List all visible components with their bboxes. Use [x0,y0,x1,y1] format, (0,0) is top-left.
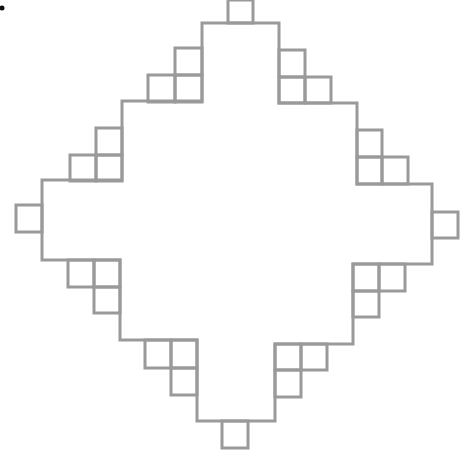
square-cell-ul-1 [175,48,202,75]
square-cell-top [228,0,253,23]
square-cell-ur-2 [357,157,382,184]
square-cell-ur-4 [279,50,305,77]
square-cell-ur-3 [382,157,408,184]
square-cell-ll-1 [68,260,94,287]
square-cell-ul-4 [96,128,122,155]
square-cell-ul-5 [70,155,96,181]
diamond-outline [42,23,432,421]
square-cell-ll-6 [171,368,197,395]
square-cell-lr-2 [301,344,327,370]
square-cell-ul-3 [175,75,202,102]
square-cell-right [432,212,458,238]
square-cell-ur-6 [305,77,331,103]
square-cell-lr-5 [379,264,405,291]
square-cell-ll-3 [94,287,120,313]
square-cell-ll-5 [171,340,197,368]
square-cell-ul-2 [148,75,175,102]
square-cell-ll-2 [94,260,120,287]
square-cell-left [16,205,42,232]
square-cell-lr-4 [353,264,379,291]
square-cell-ur-5 [279,77,305,103]
square-cell-ll-4 [145,340,171,368]
marker-dot [0,6,5,11]
square-cell-lr-3 [275,370,301,397]
square-cell-ur-1 [357,130,382,157]
cell-group [16,0,458,448]
square-cell-lr-1 [275,344,301,370]
square-cell-ul-6 [96,155,122,181]
square-cell-lr-6 [353,291,379,317]
square-cell-bottom [222,421,248,448]
diamond-staircase-diagram [0,0,466,460]
